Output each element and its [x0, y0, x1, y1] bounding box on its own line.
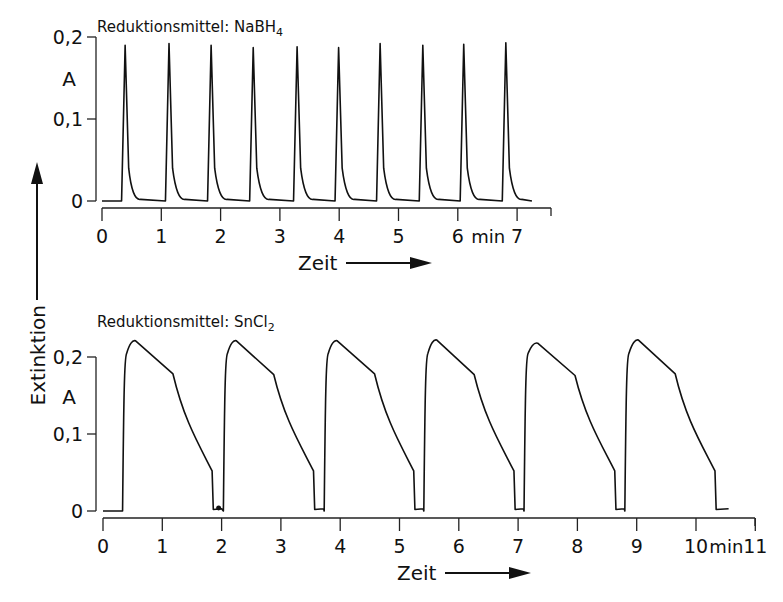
x-tick-label: 5	[392, 225, 404, 247]
x-tick-label: 1	[155, 225, 167, 247]
chart-sncl2: Reduktionsmittel: SnCl200,10,2A012345678…	[53, 313, 768, 585]
ink-dot	[216, 505, 221, 510]
shared-y-axis-label: Extinktion	[26, 162, 50, 405]
y-unit-label: A	[62, 67, 76, 91]
x-tick-label: 6	[453, 535, 465, 557]
x-axis-arrow-icon	[509, 567, 531, 579]
chart-title-subscript: 4	[276, 26, 283, 39]
x-tick-label: 2	[215, 225, 227, 247]
y-unit-label: A	[62, 385, 76, 409]
x-tick-label: 11	[743, 535, 767, 557]
x-tick-label: 5	[393, 535, 405, 557]
x-tick-label: 2	[216, 535, 228, 557]
x-tick-label: 0	[97, 535, 109, 557]
x-unit-label: min	[471, 226, 505, 247]
series-line-sncl2	[103, 340, 729, 511]
x-tick-label: 3	[275, 535, 287, 557]
x-unit-label: min	[709, 536, 743, 557]
x-tick-label: 3	[274, 225, 286, 247]
x-axis-label: Zeit	[298, 251, 338, 275]
y-tick-label: 0,2	[53, 346, 83, 368]
chart-title: Reduktionsmittel: NaBH4	[97, 18, 283, 39]
chart-figure: Reduktionsmittel: NaBH400,10,2A01234567m…	[0, 0, 783, 602]
x-tick-label: 7	[511, 225, 523, 247]
x-tick-label: 8	[571, 535, 583, 557]
x-axis-arrow-icon	[410, 257, 432, 269]
x-tick-label: 0	[96, 225, 108, 247]
x-tick-label: 4	[333, 225, 345, 247]
x-axis-label: Zeit	[397, 561, 437, 585]
y-axis-label: Extinktion	[26, 305, 50, 405]
chart-title-subscript: 2	[268, 321, 275, 334]
y-tick-label: 0	[71, 500, 83, 522]
x-tick-label: 6	[452, 225, 464, 247]
y-tick-label: 0,1	[53, 108, 83, 130]
chart-nabh4: Reduktionsmittel: NaBH400,10,2A01234567m…	[53, 18, 551, 275]
y-tick-label: 0,2	[53, 26, 83, 48]
x-tick-label: 4	[334, 535, 346, 557]
y-tick-label: 0,1	[53, 423, 83, 445]
x-tick-label: 10	[684, 535, 708, 557]
y-axis-arrow-icon	[31, 162, 43, 184]
chart-title: Reduktionsmittel: SnCl2	[97, 313, 275, 334]
x-tick-label: 9	[631, 535, 643, 557]
x-tick-label: 7	[512, 535, 524, 557]
x-tick-label: 1	[156, 535, 168, 557]
y-tick-label: 0	[71, 190, 83, 212]
series-line-nabh4	[102, 43, 532, 201]
